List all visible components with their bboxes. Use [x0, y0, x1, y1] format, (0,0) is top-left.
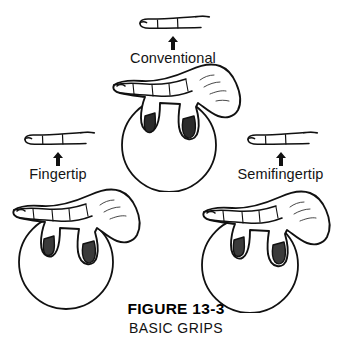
grip-semifingertip: Semifingertip — [170, 0, 352, 330]
drawing-semifingertip — [200, 178, 352, 313]
figure-number: FIGURE 13-3 — [0, 300, 352, 318]
up-arrow-icon — [52, 152, 64, 166]
figure-title: BASIC GRIPS — [0, 320, 352, 336]
grip-label-block-semifingertip: Semifingertip — [218, 130, 343, 182]
grip-fingertip: Fingertip — [0, 0, 180, 330]
drawing-fingertip — [8, 178, 158, 313]
finger-profile-icon — [20, 130, 96, 150]
up-arrow-icon — [275, 152, 287, 166]
grip-label-block-fingertip: Fingertip — [8, 130, 108, 182]
finger-profile-icon — [243, 130, 319, 150]
figure-caption: FIGURE 13-3 BASIC GRIPS — [0, 300, 352, 336]
figure-13-3: Conventional — [0, 0, 352, 348]
